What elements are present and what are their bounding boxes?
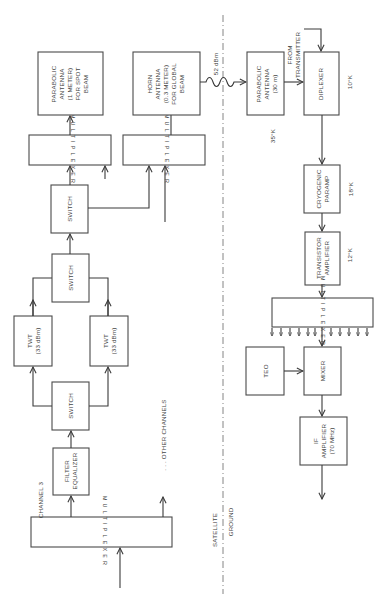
horn-antenna-label-3: (0.3 METER): [162, 65, 169, 103]
ground-antenna-label-2: ANTENNA: [263, 68, 270, 100]
channel-3-label: CHANNEL 3: [37, 481, 44, 518]
line-twt-right-switch: [89, 278, 108, 316]
switch-mid-label: SWITCH: [67, 265, 74, 291]
mixer-label: MIXER: [319, 360, 326, 381]
svg-text:12°K: 12°K: [346, 247, 353, 262]
input-multiplexer-label: MULTIPLEXER: [102, 496, 108, 568]
spot-antenna-label-3: (1 METER): [66, 68, 73, 101]
satellite-label: SATELLITE: [211, 513, 218, 547]
svg-text:. . . OTHER CHANNELS: . . . OTHER CHANNELS: [160, 399, 167, 470]
paramp-label-1: CRYOGENIC: [315, 169, 322, 208]
teo-label: TEO: [262, 364, 269, 377]
paramp-label-2: PARAMP: [323, 176, 330, 203]
satellite-link-block-diagram: SATELLITE GROUND MULTIPLEXER CHANNEL 3 .…: [0, 0, 391, 594]
from-transmitter-label-2: TRANSMITTER: [294, 32, 301, 79]
twt-left: [14, 316, 52, 366]
switch-top-label: SWITCH: [66, 196, 73, 222]
filter-label-2: EQUALIZER: [71, 452, 78, 489]
ground-antenna-label-3: (30 m): [271, 74, 278, 93]
horn-antenna-label-2: ANTENNA: [154, 68, 161, 100]
svg-text:10°K: 10°K: [346, 74, 353, 89]
cryogenic-paramp: [304, 165, 340, 213]
arrow-switch-twt-left: [33, 367, 52, 406]
horn-antenna-label-1: HORN: [146, 74, 153, 93]
arrow-switch-mux-global: [88, 166, 149, 208]
spot-antenna-label-4: FOR SPOT: [74, 67, 81, 100]
multiplexer-output-arrows: [272, 328, 367, 336]
diplexer-temperature: 10°K: [346, 74, 353, 89]
switch-lower-label: SWITCH: [67, 393, 74, 419]
global-multiplexer-label: MULTIPLEXER: [164, 114, 170, 186]
horn-antenna-label-4: FOR GLOBAL: [170, 63, 177, 105]
ground-antenna-label-1: PARABOLIC: [255, 65, 262, 102]
line-twt-left-switch: [33, 278, 52, 316]
svg-text:CHANNEL 3: CHANNEL 3: [37, 481, 44, 518]
if-label-2: AMPLIFIER: [320, 423, 327, 458]
twt-right-label-2: (33 dBm): [110, 327, 117, 354]
spot-antenna-label-1: PARABOLIC: [50, 65, 57, 102]
arrow-switch-twt-right: [89, 367, 108, 406]
twt-right: [90, 316, 128, 366]
spot-antenna-label-2: ANTENNA: [58, 68, 65, 100]
svg-text:52 dBm: 52 dBm: [212, 53, 219, 76]
from-transmitter-label-1: FROM: [286, 45, 293, 64]
svg-text:GROUND: GROUND: [227, 507, 234, 536]
transistor-temperature: 12°K: [346, 247, 353, 262]
other-channels-label: . . . OTHER CHANNELS: [160, 399, 167, 470]
paramp-temperature: 18°K: [347, 181, 354, 196]
spot-antenna-label-5: BEAM: [82, 75, 89, 93]
svg-text:18°K: 18°K: [347, 181, 354, 196]
horn-antenna-label-5: BEAM: [178, 75, 185, 93]
ground-label: GROUND: [227, 507, 234, 536]
transistor-label-2: AMPLIFIER: [323, 240, 330, 275]
diplexer-label: DIPLEXER: [317, 68, 324, 101]
link-power-label: 52 dBm: [212, 53, 219, 76]
if-label-3: (70 MHz): [328, 427, 335, 454]
antenna-temperature: 35°K: [269, 128, 276, 143]
arrow-from-transmitter: [304, 29, 321, 51]
twt-left-label-1: TWT: [26, 334, 33, 348]
if-label-1: IF: [312, 438, 319, 444]
input-multiplexer: [31, 517, 172, 547]
filter-label-1: FILTER: [63, 460, 70, 482]
twt-right-label-1: TWT: [102, 334, 109, 348]
ground-multiplexer-label: MULTIPLEXER: [320, 276, 326, 348]
transistor-label-1: TRANSISTOR: [315, 237, 322, 279]
twt-left-label-2: (33 dBm): [34, 327, 41, 354]
svg-text:35°K: 35°K: [269, 128, 276, 143]
svg-text:SATELLITE: SATELLITE: [211, 513, 218, 547]
